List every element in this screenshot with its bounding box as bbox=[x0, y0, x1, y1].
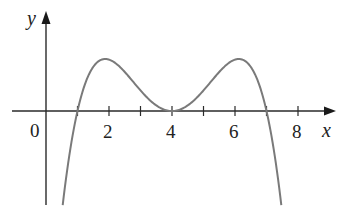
y-axis-label: y bbox=[25, 7, 36, 30]
tick-label-8: 8 bbox=[292, 121, 302, 142]
function-graph: y x 0 2 4 6 8 bbox=[0, 0, 349, 217]
x-axis-arrow-icon bbox=[324, 107, 336, 116]
y-axis-arrow-icon bbox=[42, 11, 51, 24]
x-axis-label: x bbox=[321, 119, 331, 141]
origin-label: 0 bbox=[30, 120, 40, 141]
tick-label-4: 4 bbox=[166, 121, 176, 142]
tick-label-2: 2 bbox=[103, 121, 113, 142]
tick-label-6: 6 bbox=[229, 121, 239, 142]
